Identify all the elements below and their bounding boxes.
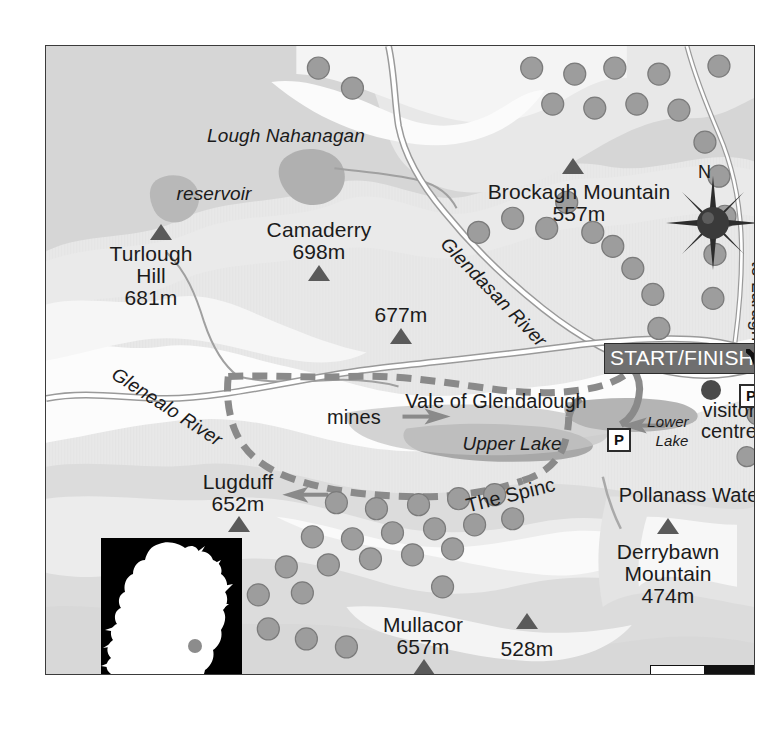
- peak-elev-camaderry: 698m: [293, 241, 346, 262]
- label-vale-of-glendalough: Vale of Glendalough: [405, 391, 587, 411]
- label-lower-lake-line2: Lake: [656, 433, 689, 448]
- peak-elev-528: 528m: [501, 638, 554, 659]
- peak-label-derrybawn-line2: Mountain: [624, 563, 711, 584]
- map-page: Lough Nahanagan reservoir Turlough Hill …: [0, 0, 784, 735]
- peak-triangle-brockagh-mountain: [562, 158, 584, 174]
- label-lower-lake-line1: Lower: [647, 414, 688, 429]
- peak-label-turlough-hill-line1: Turlough: [110, 243, 193, 264]
- inset-location-dot: [188, 639, 202, 653]
- peak-triangle-derrybawn: [657, 518, 679, 534]
- scale-bar-segment-dark: [704, 666, 756, 675]
- peak-label-camaderry: Camaderry: [267, 219, 372, 240]
- peak-triangle-528: [516, 613, 538, 629]
- label-mines: mines: [327, 407, 381, 427]
- label-to-laragh: to Laragh: [747, 261, 755, 341]
- scale-bar-segment-light: [651, 666, 704, 675]
- start-finish-label: START/FINISH: [604, 343, 755, 374]
- inset-map-ireland: [101, 538, 242, 675]
- peak-label-brockagh-mountain: Brockagh Mountain: [488, 181, 671, 202]
- peak-triangle-677: [390, 328, 412, 344]
- peak-label-mullacor: Mullacor: [383, 614, 463, 635]
- inset-ireland-svg: [101, 538, 242, 675]
- parking-marker-visitor-centre[interactable]: P: [739, 384, 755, 408]
- peak-label-derrybawn-line1: Derrybawn: [617, 541, 719, 562]
- visitor-centre-marker: [700, 379, 722, 401]
- compass-rose-icon: [664, 174, 755, 272]
- peak-elev-brockagh-mountain: 557m: [553, 203, 606, 224]
- map-frame: Lough Nahanagan reservoir Turlough Hill …: [45, 45, 755, 675]
- peak-elev-turlough-hill: 681m: [125, 287, 178, 308]
- peak-elev-677: 677m: [375, 304, 428, 325]
- peak-elev-derrybawn: 474m: [642, 585, 695, 606]
- parking-marker-upper-lake[interactable]: P: [607, 428, 631, 452]
- peak-elev-lugduff: 652m: [212, 493, 265, 514]
- label-upper-lake: Upper Lake: [462, 434, 561, 453]
- scale-bar-segments: [650, 665, 755, 675]
- peak-triangle-turlough-hill: [150, 224, 172, 240]
- peak-triangle-lugduff: [228, 516, 250, 532]
- peak-triangle-camaderry: [308, 265, 330, 281]
- peak-label-lugduff: Lugduff: [203, 471, 273, 492]
- peak-label-turlough-hill-line2: Hill: [136, 265, 166, 286]
- label-lough-nahanagan: Lough Nahanagan: [207, 126, 365, 145]
- label-reservoir: reservoir: [177, 184, 252, 203]
- peak-elev-mullacor: 657m: [397, 636, 450, 657]
- scale-bar: 0 1km: [650, 665, 755, 675]
- to-laragh-arrow-icon: [746, 349, 755, 385]
- peak-triangle-mullacor: [413, 659, 435, 675]
- label-pollanass-waterfall: Pollanass Waterfall: [619, 485, 755, 505]
- label-visitor-centre-line2: centre: [701, 421, 755, 441]
